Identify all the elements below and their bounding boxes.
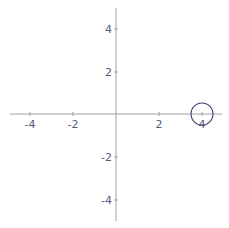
y-tick-label: -4 — [101, 194, 112, 207]
y-tick-label: 4 — [105, 23, 112, 36]
plot-canvas: -4 -2 2 4 4 2 -2 -4 — [0, 0, 229, 228]
y-tick-label: 2 — [105, 66, 112, 79]
x-tick-label: -4 — [25, 118, 36, 131]
x-tick-label: 2 — [156, 118, 163, 131]
y-tick-label: -2 — [101, 151, 112, 164]
x-tick-label: -2 — [68, 118, 79, 131]
